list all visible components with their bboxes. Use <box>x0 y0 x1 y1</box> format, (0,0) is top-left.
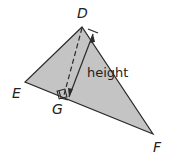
vertex-label-f: F <box>153 139 162 155</box>
vertex-label-d: D <box>77 5 88 21</box>
vertex-label-e: E <box>12 85 21 101</box>
height-cap-top <box>88 29 98 33</box>
foot-label-g: G <box>52 101 63 117</box>
triangle-diagram: D E F G height <box>0 0 169 157</box>
height-label: height <box>87 65 128 80</box>
